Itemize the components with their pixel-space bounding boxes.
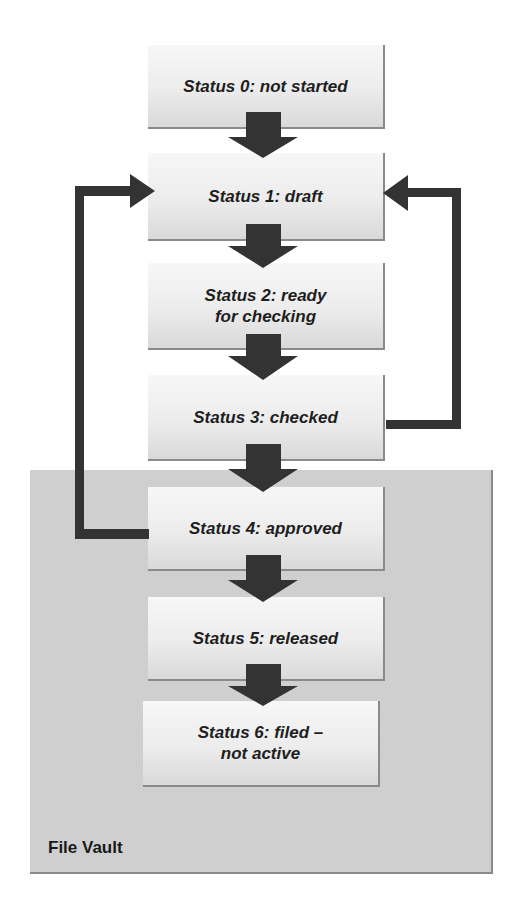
status-box-1: Status 1: draft — [148, 153, 385, 241]
status-box-2: Status 2: ready for checking — [148, 263, 385, 350]
status-label-3: Status 3: checked — [193, 407, 338, 428]
file-vault-label: File Vault — [48, 838, 123, 858]
status-label-1: Status 1: draft — [208, 186, 322, 207]
status-label-4: Status 4: approved — [189, 518, 342, 539]
status-box-0: Status 0: not started — [148, 45, 385, 129]
status-label-0: Status 0: not started — [183, 76, 347, 97]
status-label-6: Status 6: filed – not active — [198, 722, 324, 764]
status-box-4: Status 4: approved — [148, 487, 385, 571]
status-box-3: Status 3: checked — [148, 375, 385, 461]
status-box-6: Status 6: filed – not active — [143, 701, 380, 787]
status-box-5: Status 5: released — [148, 597, 385, 681]
status-label-2: Status 2: ready for checking — [205, 285, 327, 327]
status-label-5: Status 5: released — [193, 628, 339, 649]
loop-back-arrow-icon-right — [383, 175, 461, 429]
